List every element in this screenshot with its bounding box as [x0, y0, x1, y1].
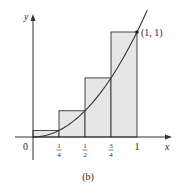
x-axis-label: x: [164, 141, 170, 152]
tick-numerator: 1: [83, 142, 87, 150]
y-axis-arrow-icon: [31, 14, 36, 21]
rectangle-1: [33, 130, 59, 137]
tick-denominator: 2: [83, 151, 87, 159]
figure-caption: (b): [82, 171, 94, 183]
origin-label: 0: [23, 141, 28, 152]
point-label: (1, 1): [141, 27, 163, 39]
plot-area: (1, 1) y x 0 1412341 (b): [0, 0, 181, 194]
y-axis-label: y: [23, 11, 29, 22]
riemann-sum-figure: (1, 1) y x 0 1412341 (b): [0, 0, 181, 194]
tick-numerator: 1: [57, 142, 61, 150]
x-axis-arrow-icon: [165, 135, 172, 140]
tick-numerator: 3: [109, 142, 113, 150]
point-1-1-marker: [135, 30, 139, 34]
upper-sum-rectangles: [33, 32, 137, 137]
rectangle-4: [111, 32, 137, 137]
rectangle-3: [85, 78, 111, 137]
x-tick-labels: 1412341: [57, 141, 140, 159]
tick-denominator: 4: [109, 151, 113, 159]
tick-label: 1: [135, 141, 140, 152]
tick-denominator: 4: [57, 151, 61, 159]
